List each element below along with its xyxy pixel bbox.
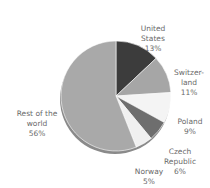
label-norway: Norway5% xyxy=(131,157,167,187)
label-text: Switzer- land xyxy=(174,68,204,87)
label-poland: Poland9% xyxy=(172,107,208,137)
label-united-states: United States13% xyxy=(133,14,173,54)
label-text: Poland xyxy=(177,117,202,126)
label-text: Rest of the world xyxy=(17,109,58,128)
label-rest-of-world: Rest of the world56% xyxy=(14,99,60,139)
label-pct: 56% xyxy=(29,129,46,138)
label-text: Czech Republic xyxy=(164,147,196,166)
label-pct: 6% xyxy=(174,167,186,176)
label-text: Norway xyxy=(135,167,163,176)
label-pct: 11% xyxy=(181,88,198,97)
label-pct: 9% xyxy=(184,127,196,136)
label-pct: 13% xyxy=(145,44,162,53)
label-pct: 5% xyxy=(143,177,155,186)
label-text: United States xyxy=(141,24,166,43)
label-switzerland: Switzer- land11% xyxy=(169,58,209,98)
